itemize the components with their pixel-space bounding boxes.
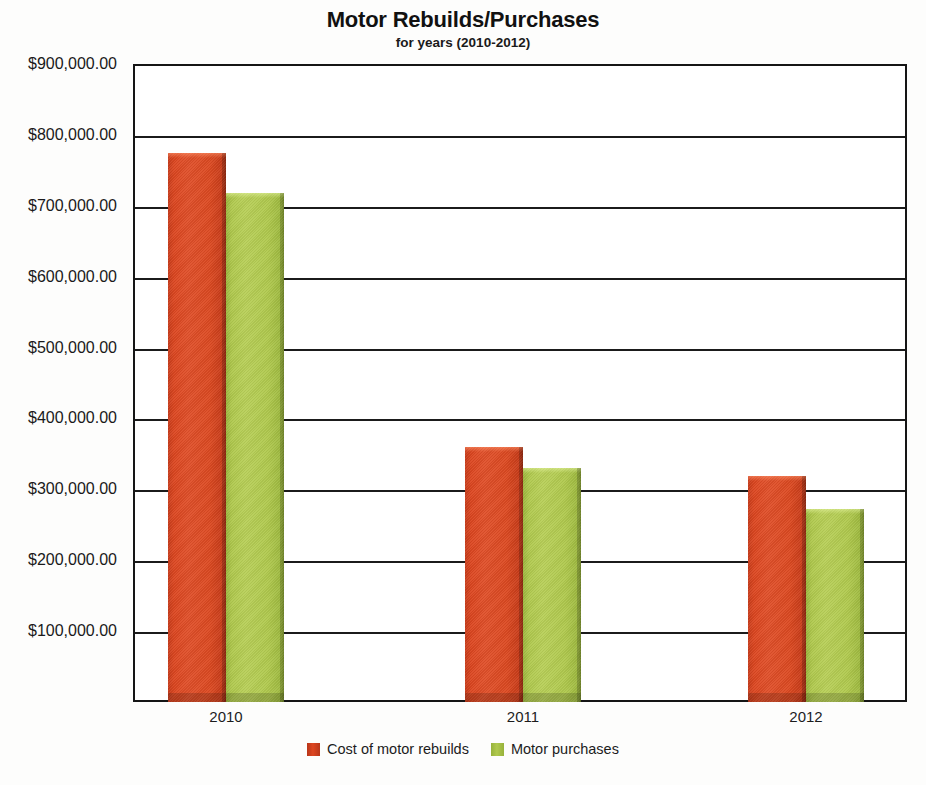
legend-item-purchases[interactable]: Motor purchases xyxy=(491,741,619,757)
x-tick-label-2010: 2010 xyxy=(209,708,242,726)
y-tick-label: $500,000.00 xyxy=(28,340,117,356)
y-tick-label: $600,000.00 xyxy=(28,269,117,285)
gridline xyxy=(135,136,905,138)
legend-label: Cost of motor rebuilds xyxy=(327,741,469,757)
chart-title: Motor Rebuilds/Purchases xyxy=(0,8,926,32)
y-axis-tick-labels: $100,000.00$200,000.00$300,000.00$400,00… xyxy=(0,0,125,785)
y-tick-label: $100,000.00 xyxy=(28,623,117,639)
gridline xyxy=(135,632,905,634)
y-tick-label: $200,000.00 xyxy=(28,552,117,568)
y-tick-label: $700,000.00 xyxy=(28,198,117,214)
legend-swatch-icon xyxy=(307,743,320,756)
bar-chart: Motor Rebuilds/Purchases for years (2010… xyxy=(0,0,926,785)
x-tick-label-2011: 2011 xyxy=(507,708,539,726)
gridline xyxy=(135,207,905,209)
chart-legend: Cost of motor rebuildsMotor purchases xyxy=(0,741,926,757)
legend-swatch-icon xyxy=(491,743,504,756)
y-tick-label: $400,000.00 xyxy=(28,410,117,426)
gridline xyxy=(135,349,905,351)
gridline xyxy=(135,490,905,492)
x-tick-label-2012: 2012 xyxy=(789,708,822,726)
legend-label: Motor purchases xyxy=(511,741,619,757)
title-block: Motor Rebuilds/Purchases for years (2010… xyxy=(0,8,926,51)
gridline xyxy=(135,419,905,421)
gridline xyxy=(135,561,905,563)
gridline xyxy=(135,278,905,280)
chart-subtitle: for years (2010-2012) xyxy=(0,36,926,51)
y-tick-label: $800,000.00 xyxy=(28,127,117,143)
y-tick-label: $900,000.00 xyxy=(28,56,117,72)
legend-item-rebuilds[interactable]: Cost of motor rebuilds xyxy=(307,741,469,757)
y-tick-label: $300,000.00 xyxy=(28,481,117,497)
plot-area xyxy=(133,64,907,702)
